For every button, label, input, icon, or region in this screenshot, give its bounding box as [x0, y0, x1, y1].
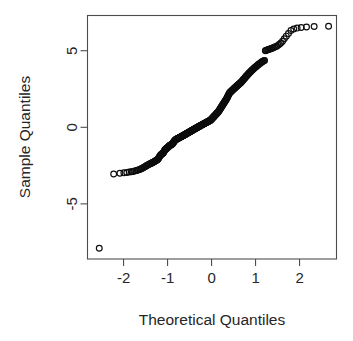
plot-canvas: -2-1012 50-5 Theoretical Quantiles Sampl…: [0, 0, 353, 341]
plot-background: [0, 0, 353, 341]
x-axis-tick-label: -1: [161, 269, 174, 286]
x-axis-tick-label: 0: [207, 269, 215, 286]
y-axis-title: Sample Quantiles: [16, 76, 33, 199]
x-axis-tick-label: 2: [295, 269, 303, 286]
x-axis-tick-label: 1: [251, 269, 259, 286]
qq-plot-figure: -2-1012 50-5 Theoretical Quantiles Sampl…: [0, 0, 353, 341]
y-axis-tick-label: 5: [63, 47, 80, 55]
y-axis-tick-label: -5: [63, 197, 80, 210]
x-axis-tick-label: -2: [117, 269, 130, 286]
y-axis-tick-label: 0: [63, 123, 80, 131]
x-axis-title: Theoretical Quantiles: [139, 311, 286, 328]
